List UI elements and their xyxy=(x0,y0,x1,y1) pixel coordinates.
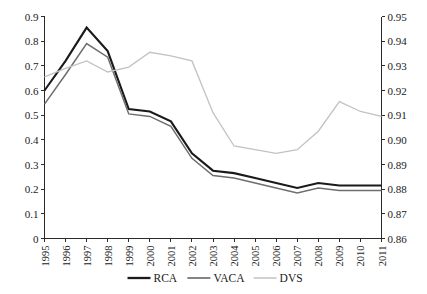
right-axis: 0.860.870.880.890.900.910.920.930.940.95 xyxy=(382,11,408,245)
right-axis-tick-label: 0.86 xyxy=(388,233,408,245)
x-axis-tick-label: 2000 xyxy=(145,246,156,267)
left-axis-tick-label: 0.2 xyxy=(25,183,39,195)
right-axis-tick-label: 0.88 xyxy=(388,183,408,195)
left-axis-tick-label: 0 xyxy=(33,233,39,245)
x-axis-tick-label: 2011 xyxy=(377,246,388,267)
chart-legend: RCAVACADVS xyxy=(128,272,303,284)
series-line-dvs xyxy=(45,52,382,153)
x-axis-tick-label: 2003 xyxy=(208,246,219,267)
x-axis-tick-label: 2005 xyxy=(250,246,261,267)
right-axis-tick-label: 0.92 xyxy=(388,85,407,97)
x-axis-tick-label: 2001 xyxy=(166,246,177,267)
right-axis-tick-label: 0.89 xyxy=(388,159,408,171)
left-axis-tick-label: 0.9 xyxy=(25,11,39,23)
right-axis-tick-label: 0.90 xyxy=(388,134,408,146)
x-axis: 1995199619971998199920002001200220032004… xyxy=(40,239,388,267)
x-axis-tick-label: 2006 xyxy=(271,246,282,267)
x-axis-tick-label: 1997 xyxy=(82,246,93,267)
left-axis-tick-label: 0.7 xyxy=(25,60,39,72)
right-axis-tick-label: 0.93 xyxy=(388,60,408,72)
legend-label-vaca: VACA xyxy=(213,272,245,284)
legend-label-rca: RCA xyxy=(154,272,178,284)
series-line-rca xyxy=(45,28,382,188)
x-axis-tick-label: 1999 xyxy=(124,246,135,267)
x-axis-tick-label: 2010 xyxy=(355,246,366,267)
left-axis-tick-label: 0.3 xyxy=(25,159,39,171)
left-axis-tick-label: 0.1 xyxy=(25,208,39,220)
x-axis-tick-label: 1996 xyxy=(61,246,72,267)
right-axis-tick-label: 0.91 xyxy=(388,109,407,121)
left-axis-tick-label: 0.8 xyxy=(25,35,39,47)
x-axis-tick-label: 2004 xyxy=(229,245,240,267)
right-axis-tick-label: 0.95 xyxy=(388,11,408,23)
x-axis-tick-label: 2002 xyxy=(187,246,198,267)
x-axis-tick-label: 1998 xyxy=(103,246,114,267)
legend-label-dvs: DVS xyxy=(280,272,303,284)
x-axis-tick-label: 2008 xyxy=(313,246,324,267)
left-axis: 00.10.20.30.40.50.60.70.80.9 xyxy=(25,11,45,245)
x-axis-tick-label: 2007 xyxy=(292,246,303,267)
x-axis-tick-label: 1995 xyxy=(40,246,51,267)
left-axis-tick-label: 0.4 xyxy=(25,134,39,146)
line-chart: 00.10.20.30.40.50.60.70.80.9 0.860.870.8… xyxy=(0,0,427,294)
left-axis-tick-label: 0.6 xyxy=(25,85,39,97)
left-axis-tick-label: 0.5 xyxy=(25,109,39,121)
right-axis-tick-label: 0.94 xyxy=(388,35,408,47)
right-axis-tick-label: 0.87 xyxy=(388,208,408,220)
chart-canvas: 00.10.20.30.40.50.60.70.80.9 0.860.870.8… xyxy=(0,0,427,294)
x-axis-tick-label: 2009 xyxy=(334,246,345,267)
series-lines xyxy=(45,28,382,193)
